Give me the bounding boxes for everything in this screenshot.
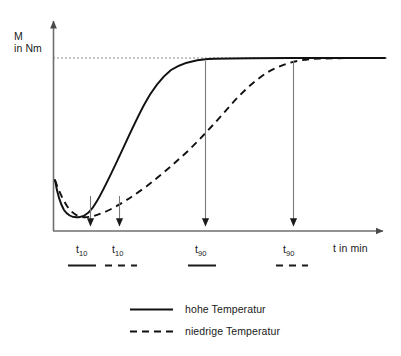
tick-label-t90-dashed: t90: [283, 243, 294, 260]
curve-hohe-temperatur: [55, 58, 385, 217]
legend-label-niedrige-temperatur: niedrige Temperatur: [185, 325, 280, 337]
legend-label-hohe-temperatur: hohe Temperatur: [185, 303, 266, 315]
tick-subscript: 10: [79, 249, 87, 258]
x-axis-title: t in min: [333, 242, 368, 254]
y-axis-title: M in Nm: [14, 30, 42, 54]
y-axis-title-line2: in Nm: [14, 42, 42, 54]
tick-subscript: 90: [198, 249, 206, 258]
tick-subscript: 10: [115, 249, 123, 258]
tick-label-t90-solid: t90: [195, 243, 206, 260]
y-axis-title-line1: M: [14, 30, 23, 42]
tick-label-t10-solid: t10: [76, 243, 87, 260]
curve-niedrige-temperatur: [55, 58, 385, 217]
tick-subscript: 90: [286, 249, 294, 258]
tick-label-t10-dashed: t10: [112, 243, 123, 260]
torque-vs-time-chart: M in Nm t in min t10 t10 t90 t90 hohe Te…: [0, 0, 401, 356]
